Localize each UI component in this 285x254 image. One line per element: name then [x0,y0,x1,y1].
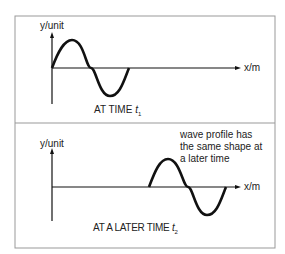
x-axis-label-bottom: x/m [244,181,260,192]
x-axis-arrow-bottom-icon [235,185,241,189]
y-axis-arrow-top-icon [50,32,54,38]
wave-diagram [0,0,285,254]
annotation: wave profile has the same shape at a lat… [180,129,262,165]
caption-bottom: AT A LATER TIME t2 [93,222,177,235]
y-axis-label-top: y/unit [40,20,64,31]
x-axis-arrow-top-icon [235,66,241,70]
x-axis-label-top: x/m [244,62,260,73]
y-axis-label-bottom: y/unit [40,138,64,149]
caption-top: AT TIME t1 [94,104,141,117]
